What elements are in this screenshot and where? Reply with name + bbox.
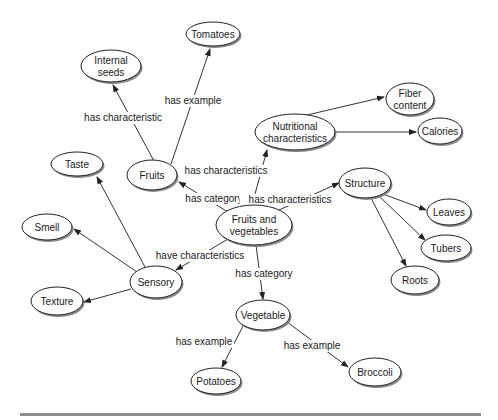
node-fruits: Fruits — [127, 160, 179, 192]
node-label: characteristics — [263, 133, 327, 144]
node-label: vegetables — [230, 226, 278, 237]
node-structure: Structure — [339, 168, 393, 200]
node-label: Tubers — [431, 243, 462, 254]
node-broccoli: Broccoli — [349, 358, 403, 388]
node-label: Fruits — [140, 170, 165, 181]
node-vegetable: Vegetable — [236, 300, 292, 332]
edge-nutritional-to-fiber — [307, 97, 384, 115]
node-label: Roots — [402, 275, 428, 286]
node-label: Vegetable — [241, 310, 286, 321]
edge-label: has example — [165, 95, 222, 106]
node-label: Nutritional — [272, 121, 317, 132]
nodes-layer: Fruits andvegetablesFruitsInternalseedsT… — [22, 22, 473, 396]
node-label: Structure — [345, 178, 386, 189]
node-label: Potatoes — [196, 376, 235, 387]
edge-sensory-to-taste — [97, 177, 145, 267]
edge-label: has category — [185, 193, 242, 204]
edge-label: has characteristics — [249, 194, 332, 205]
node-label: content — [394, 100, 427, 111]
node-fv: Fruits andvegetables — [216, 205, 294, 247]
concept-map-canvas: has categoryhas characteristichas exampl… — [0, 0, 498, 420]
node-tomatoes: Tomatoes — [186, 22, 242, 48]
node-label: Taste — [65, 159, 89, 170]
node-roots: Roots — [391, 266, 441, 296]
edge-sensory-to-smell — [74, 229, 137, 272]
node-nutritional: Nutritionalcharacteristics — [255, 114, 337, 152]
concept-map-figure: has categoryhas characteristichas exampl… — [0, 0, 498, 420]
node-label: Fiber — [399, 88, 422, 99]
node-label: Tomatoes — [191, 29, 234, 40]
node-leaves: Leaves — [427, 199, 473, 227]
node-internal_seeds: Internalseeds — [81, 50, 143, 84]
node-texture: Texture — [31, 287, 85, 317]
node-label: Smell — [34, 222, 59, 233]
edge-structure-to-leaves — [383, 194, 426, 210]
node-label: Leaves — [433, 207, 465, 218]
node-tubers: Tubers — [421, 235, 473, 263]
node-label: Internal — [94, 55, 127, 66]
node-fiber: Fibercontent — [386, 83, 436, 117]
edge-sensory-to-texture — [84, 289, 131, 302]
node-label: Calories — [422, 126, 459, 137]
node-label: Fruits and — [232, 214, 276, 225]
node-label: seeds — [98, 67, 125, 78]
edge-label: has category — [235, 268, 292, 279]
node-label: Broccoli — [357, 367, 393, 378]
node-potatoes: Potatoes — [191, 368, 243, 396]
bottom-rule-divider — [20, 413, 481, 416]
node-label: Sensory — [138, 277, 175, 288]
edge-structure-to-roots — [371, 198, 406, 266]
edge-label: has example — [176, 336, 233, 347]
edge-label: has example — [284, 340, 341, 351]
edge-label: have characteristics — [156, 250, 244, 261]
edge-label: has characteristics — [185, 165, 268, 176]
node-taste: Taste — [51, 152, 105, 178]
node-smell: Smell — [22, 214, 74, 242]
edge-label: has characteristic — [84, 112, 162, 123]
edge-structure-to-tubers — [380, 197, 425, 240]
node-calories: Calories — [418, 118, 464, 146]
node-sensory: Sensory — [130, 266, 184, 300]
node-label: Texture — [41, 296, 74, 307]
